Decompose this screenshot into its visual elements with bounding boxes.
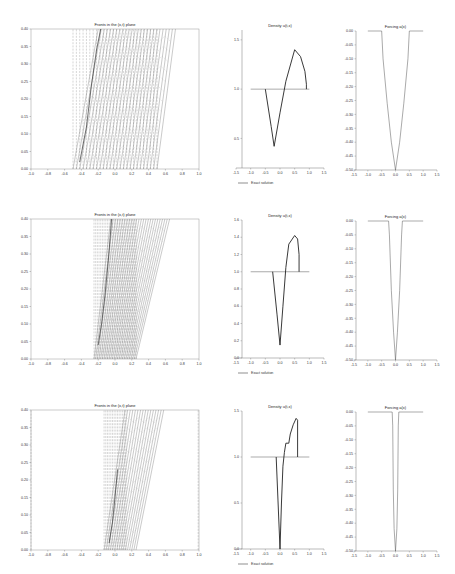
- exact-solution-line: [273, 236, 299, 346]
- y-tick-label: 0.15: [21, 115, 28, 119]
- y-tick-label: -0.50: [345, 549, 353, 553]
- x-tick-label: 1.0: [421, 554, 426, 558]
- x-tick-label: 0.6: [163, 172, 168, 176]
- x-tick-label: 1.0: [197, 172, 202, 176]
- x-tick-label: 0.6: [163, 362, 168, 366]
- x-tick-label: 1.5: [435, 363, 440, 367]
- y-tick-label: -0.45: [345, 154, 353, 158]
- y-tick-label: -0.05: [345, 424, 353, 428]
- y-tick-label: -0.35: [345, 317, 353, 321]
- x-tick-label: -0.2: [95, 362, 101, 366]
- x-tick-label: 0.0: [393, 173, 398, 177]
- x-tick-label: 0.4: [146, 362, 151, 366]
- x-tick-label: -0.6: [61, 553, 67, 557]
- y-tick-label: 0.0: [234, 356, 239, 360]
- front-line-solid: [80, 29, 105, 169]
- y-tick-label: -0.15: [345, 452, 353, 456]
- plot-title: Density u(t,x): [268, 213, 292, 218]
- x-tick-label: -1.5: [233, 552, 239, 556]
- x-tick-label: 0.5: [407, 554, 412, 558]
- y-tick-label: 0.10: [21, 513, 28, 517]
- x-tick-label: 0.5: [292, 361, 297, 365]
- x-tick-label: 0.0: [113, 362, 118, 366]
- front-line-solid: [114, 219, 139, 359]
- x-tick-label: -0.5: [262, 171, 268, 175]
- x-tick-label: -1.5: [233, 171, 239, 175]
- forcing-plot-row-2: Forcing a(x)-1.5-1.0-0.50.00.51.01.50.00…: [345, 214, 440, 367]
- y-tick-label: -0.35: [345, 508, 353, 512]
- y-tick-label: 0.25: [21, 80, 28, 84]
- y-tick-label: -0.20: [345, 275, 353, 279]
- x-tick-label: 0.8: [180, 553, 185, 557]
- y-tick-label: 0.20: [21, 478, 28, 482]
- y-tick-label: 0.5: [234, 137, 239, 141]
- y-tick-label: -0.05: [345, 43, 353, 47]
- y-tick-label: 0.10: [21, 322, 28, 326]
- x-tick-label: -0.4: [78, 553, 84, 557]
- x-tick-label: 0.0: [278, 552, 283, 556]
- x-tick-label: -1.0: [365, 173, 371, 177]
- x-tick-label: 0.5: [407, 173, 412, 177]
- x-tick-label: 1.0: [421, 363, 426, 367]
- plot-title: Fronts in the (x,t) plane: [94, 212, 136, 217]
- y-tick-label: 0.00: [21, 548, 28, 552]
- x-tick-label: 1.5: [322, 552, 327, 556]
- plot-title: Fronts in the (x,t) plane: [94, 22, 136, 27]
- x-tick-label: -0.6: [61, 172, 67, 176]
- x-tick-label: 0.0: [278, 171, 283, 175]
- x-tick-label: 0.5: [292, 171, 297, 175]
- x-tick-label: -1.0: [365, 363, 371, 367]
- y-tick-label: 0.8: [234, 287, 239, 291]
- y-tick-label: 0.00: [21, 167, 28, 171]
- exact-solution-line: [265, 50, 306, 147]
- y-tick-label: -0.10: [345, 57, 353, 61]
- y-tick-label: 0.35: [21, 235, 28, 239]
- y-tick-label: -0.20: [345, 466, 353, 470]
- plot-title: Forcing a(x): [385, 24, 407, 29]
- front-line-solid: [136, 219, 170, 359]
- x-tick-label: -0.4: [78, 172, 84, 176]
- y-tick-label: 0.00: [346, 29, 353, 33]
- x-tick-label: -1.0: [248, 361, 254, 365]
- forcing-plot-row-1: Forcing a(x)-1.5-1.0-0.50.00.51.01.50.00…: [345, 24, 440, 177]
- x-tick-label: 0.4: [146, 553, 151, 557]
- forcing-plot-row-3: Forcing a(x)-1.5-1.0-0.50.00.51.01.50.00…: [345, 405, 440, 558]
- plot-frame: [31, 410, 199, 550]
- x-tick-label: 1.0: [421, 173, 426, 177]
- y-tick-label: -0.10: [345, 438, 353, 442]
- y-tick-label: 0.00: [21, 357, 28, 361]
- x-tick-label: -0.2: [95, 553, 101, 557]
- front-line-solid: [131, 219, 163, 359]
- x-tick-label: 0.8: [180, 172, 185, 176]
- x-tick-label: -0.8: [45, 362, 51, 366]
- front-line-solid: [97, 219, 115, 359]
- x-tick-label: 1.5: [435, 554, 440, 558]
- front-line-solid: [128, 219, 158, 359]
- x-tick-label: -1.0: [28, 172, 34, 176]
- x-tick-label: 0.4: [146, 172, 151, 176]
- y-tick-label: 0.40: [21, 27, 28, 31]
- y-tick-label: 0.40: [21, 408, 28, 412]
- front-line-solid: [117, 410, 141, 550]
- y-tick-label: 0.35: [21, 426, 28, 430]
- y-tick-label: 0.35: [21, 45, 28, 49]
- front-line-solid: [144, 29, 164, 169]
- x-tick-label: -0.5: [379, 554, 385, 558]
- y-tick-label: 1.6: [234, 218, 239, 222]
- x-tick-label: 0.2: [129, 172, 134, 176]
- legend-label: Exact solution: [251, 562, 273, 566]
- fronts-plot-row-3: Fronts in the (x,t) plane-1.0-0.8-0.6-0.…: [21, 403, 202, 557]
- y-tick-label: 0.00: [346, 219, 353, 223]
- front-line-solid: [134, 219, 167, 359]
- y-tick-label: 0.10: [21, 132, 28, 136]
- exact-solution-line: [276, 418, 297, 549]
- y-tick-label: -0.30: [345, 494, 353, 498]
- y-tick-label: -0.10: [345, 247, 353, 251]
- x-tick-label: -0.6: [61, 362, 67, 366]
- plot-title: Density u(t,x): [268, 23, 292, 28]
- x-tick-label: 1.0: [307, 171, 312, 175]
- x-tick-label: 0.5: [407, 363, 412, 367]
- x-tick-label: -0.2: [95, 172, 101, 176]
- fronts-plot-row-1: Fronts in the (x,t) plane-1.0-0.8-0.6-0.…: [21, 22, 202, 176]
- x-tick-label: -0.5: [262, 552, 268, 556]
